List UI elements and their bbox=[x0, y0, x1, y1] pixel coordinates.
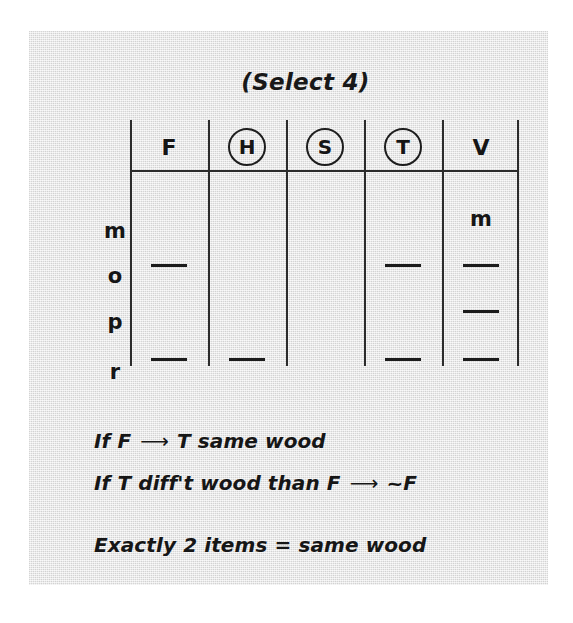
cell-p-T[interactable] bbox=[364, 294, 442, 328]
cell-dash-icon bbox=[151, 264, 187, 267]
rule-line-1: If F ⟶ T same wood bbox=[94, 429, 326, 453]
cell-dash-icon bbox=[385, 264, 421, 267]
column-header-h-label: H bbox=[228, 128, 266, 166]
column-header-t[interactable]: T bbox=[364, 126, 442, 168]
column-header-h[interactable]: H bbox=[208, 126, 286, 168]
cell-dash-icon bbox=[463, 264, 499, 267]
notepaper-panel: (Select 4) m o p r F H S T V bbox=[29, 31, 548, 585]
column-header-v[interactable]: V bbox=[442, 126, 520, 168]
rule-1-antecedent: If F bbox=[94, 429, 131, 453]
column-header-s[interactable]: S bbox=[286, 126, 364, 168]
implication-arrow-icon: ⟶ bbox=[348, 471, 380, 495]
cell-r-V[interactable] bbox=[442, 342, 520, 376]
cell-r-F[interactable] bbox=[130, 342, 208, 376]
cell-m-S[interactable] bbox=[286, 202, 364, 236]
cell-m-H[interactable] bbox=[208, 202, 286, 236]
column-header-v-label: V bbox=[472, 135, 489, 160]
row-label-r: r bbox=[103, 360, 127, 384]
cell-m-T[interactable] bbox=[364, 202, 442, 236]
cell-dash-icon bbox=[385, 358, 421, 361]
cell-r-H[interactable] bbox=[208, 342, 286, 376]
cell-dash-icon bbox=[229, 358, 265, 361]
cell-o-F[interactable] bbox=[130, 248, 208, 282]
cell-dash-icon bbox=[463, 358, 499, 361]
cell-p-F[interactable] bbox=[130, 294, 208, 328]
column-header-f[interactable]: F bbox=[130, 126, 208, 168]
cell-p-V[interactable] bbox=[442, 294, 520, 328]
implication-arrow-icon: ⟶ bbox=[138, 429, 170, 453]
cell-r-T[interactable] bbox=[364, 342, 442, 376]
rule-2-antecedent: If T diff't wood than F bbox=[94, 471, 341, 495]
cell-r-S[interactable] bbox=[286, 342, 364, 376]
cell-o-S[interactable] bbox=[286, 248, 364, 282]
cell-dash-icon bbox=[463, 310, 499, 313]
cell-p-S[interactable] bbox=[286, 294, 364, 328]
column-header-t-label: T bbox=[384, 128, 422, 166]
row-label-m: m bbox=[103, 219, 127, 243]
rule-line-2: If T diff't wood than F ⟶ ~F bbox=[94, 471, 417, 495]
cell-m-V[interactable]: m bbox=[442, 202, 520, 236]
cell-dash-icon bbox=[151, 358, 187, 361]
row-label-p: p bbox=[103, 310, 127, 334]
page-title: (Select 4) bbox=[29, 69, 548, 95]
row-label-o: o bbox=[103, 264, 127, 288]
cell-o-H[interactable] bbox=[208, 248, 286, 282]
cell-o-V[interactable] bbox=[442, 248, 520, 282]
rule-line-3: Exactly 2 items = same wood bbox=[94, 533, 426, 557]
cell-p-H[interactable] bbox=[208, 294, 286, 328]
column-header-f-label: F bbox=[161, 135, 176, 160]
grid-header-underline bbox=[130, 170, 519, 172]
rule-2-consequent: ~F bbox=[386, 471, 417, 495]
cell-o-T[interactable] bbox=[364, 248, 442, 282]
selection-grid: F H S T V m bbox=[130, 120, 519, 366]
cell-mark: m bbox=[470, 209, 492, 230]
rule-1-consequent: T same wood bbox=[177, 429, 326, 453]
cell-m-F[interactable] bbox=[130, 202, 208, 236]
column-header-s-label: S bbox=[306, 128, 344, 166]
